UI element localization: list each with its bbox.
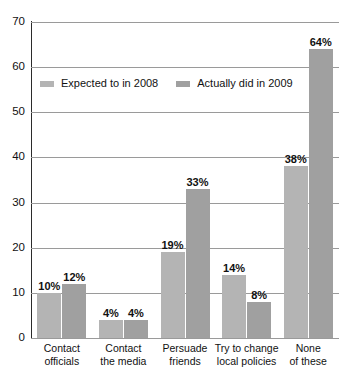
chart-legend: Expected to in 2008 Actually did in 2009 [40,78,293,89]
legend-label-actual: Actually did in 2009 [197,78,292,89]
bar: 38% [284,166,308,338]
bar: 33% [186,189,210,338]
category-axis-labels: ContactofficialsContactthe mediaPersuade… [31,342,339,375]
bar: 14% [222,275,246,338]
bar-group: 4%4% [99,22,148,338]
bar-group: 38%64% [284,22,333,338]
bar-value-label: 10% [38,281,60,292]
legend-item-actual: Actually did in 2009 [176,78,292,89]
bar-value-label: 33% [186,177,208,188]
category-label-line: Contact [89,342,159,355]
bar: 19% [161,252,185,338]
legend-label-expected: Expected to in 2008 [61,78,158,89]
plot-area: 10%12%4%4%19%33%14%8%38%64% [31,22,339,338]
gridline-0 [31,338,339,339]
bar-value-label: 8% [251,290,267,301]
bar: 8% [247,302,271,338]
legend-swatch-expected [40,81,54,87]
y-axis-tick-20: 20 [0,242,25,254]
category-label: Try to changelocal policies [212,342,282,368]
y-axis-tick-60: 60 [0,61,25,73]
y-axis-tick-10: 10 [0,287,25,299]
legend-item-expected: Expected to in 2008 [40,78,158,89]
bar-value-label: 14% [223,263,245,274]
y-axis-tick-40: 40 [0,151,25,163]
bar-chart: 10%12%4%4%19%33%14%8%38%64% Contactoffic… [0,0,343,375]
bar-value-label: 38% [285,154,307,165]
bar-group: 19%33% [161,22,210,338]
bar: 4% [99,320,123,338]
bar-group: 10%12% [37,22,86,338]
bar: 10% [37,293,61,338]
category-label-line: local policies [212,355,282,368]
y-axis-tick-70: 70 [0,16,25,28]
category-label-line: of these [273,355,343,368]
category-label-line: officials [27,355,97,368]
bar-value-label: 4% [103,308,119,319]
bar: 64% [309,49,333,338]
y-axis-tick-30: 30 [0,197,25,209]
category-label-line: Persuade [150,342,220,355]
bar: 12% [62,284,86,338]
category-label-line: friends [150,355,220,368]
bar: 4% [124,320,148,338]
bar-group: 14%8% [222,22,271,338]
category-label-line: Try to change [212,342,282,355]
bar-value-label: 19% [161,240,183,251]
bar-value-label: 64% [310,37,332,48]
bar-value-label: 12% [63,272,85,283]
y-axis-tick-50: 50 [0,106,25,118]
category-label: Contactthe media [89,342,159,368]
legend-swatch-actual [176,81,190,87]
category-label-line: Contact [27,342,97,355]
y-axis-tick-0: 0 [0,332,25,344]
bar-value-label: 4% [128,308,144,319]
category-label-line: None [273,342,343,355]
category-label-line: the media [89,355,159,368]
category-label: Persuadefriends [150,342,220,368]
category-label: Noneof these [273,342,343,368]
category-label: Contactofficials [27,342,97,368]
